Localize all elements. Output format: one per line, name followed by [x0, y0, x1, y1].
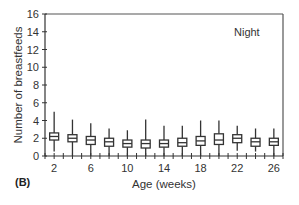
panel-label: (B) [15, 176, 31, 188]
y-axis-title: Number of breastfeeds [12, 26, 24, 143]
y-tick-label: 8 [33, 79, 39, 91]
box-plot-chart: 0246810121416 261014182226 Night Number … [0, 0, 299, 205]
box-series [50, 112, 279, 156]
x-axis-title: Age (weeks) [132, 178, 196, 190]
y-tick-label: 6 [33, 97, 39, 109]
y-tick-label: 12 [27, 44, 39, 56]
x-tick-label: 14 [158, 162, 170, 174]
x-tick-label: 6 [88, 162, 94, 174]
y-tick-label: 16 [27, 8, 39, 20]
x-tick-label: 26 [268, 162, 280, 174]
y-tick-label: 2 [33, 132, 39, 144]
box-week-26 [269, 128, 278, 156]
box-week-20 [214, 121, 223, 157]
y-tick-label: 4 [33, 115, 39, 127]
box-week-6 [86, 123, 95, 156]
x-tick-label: 2 [51, 162, 57, 174]
box-week-4 [68, 120, 77, 156]
x-axis: 261014182226 [45, 153, 283, 174]
x-tick-label: 18 [194, 162, 206, 174]
box-week-24 [251, 128, 260, 151]
x-tick-label: 10 [121, 162, 133, 174]
box-week-10 [123, 130, 132, 156]
y-tick-label: 14 [27, 26, 39, 38]
box-week-8 [105, 128, 114, 156]
box-week-12 [141, 120, 150, 156]
box-week-14 [160, 126, 169, 156]
box-week-22 [233, 126, 242, 151]
y-tick-label: 0 [33, 150, 39, 162]
night-annotation: Night [234, 26, 260, 38]
y-tick-label: 10 [27, 61, 39, 73]
box-week-2 [50, 112, 59, 152]
x-tick-label: 22 [231, 162, 243, 174]
box-week-16 [178, 126, 187, 156]
y-axis: 0246810121416 [27, 8, 47, 162]
box-week-18 [196, 121, 205, 157]
iqr-box [214, 134, 223, 145]
